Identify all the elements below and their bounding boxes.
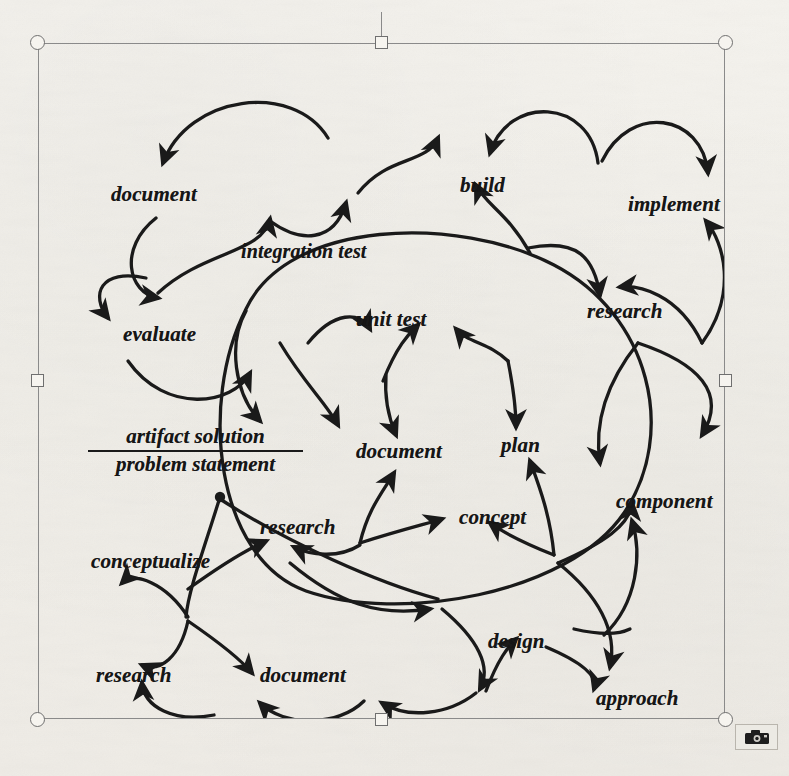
- image-selection-frame[interactable]: [38, 43, 725, 719]
- selection-border: [38, 43, 725, 719]
- resize-handle-middle-left[interactable]: [31, 374, 44, 387]
- resize-handle-bottom-center[interactable]: [375, 713, 388, 726]
- resize-handle-bottom-left[interactable]: [30, 712, 45, 727]
- resize-handle-middle-right[interactable]: [719, 374, 732, 387]
- rotation-handle-top-center[interactable]: [375, 36, 388, 49]
- resize-handle-top-left[interactable]: [30, 35, 45, 50]
- resize-handle-top-right[interactable]: [718, 35, 733, 50]
- picture-toolbar[interactable]: [735, 724, 778, 750]
- rotation-handle-stem: [381, 12, 383, 38]
- picture-toolbar-icon: [744, 729, 770, 745]
- resize-handle-bottom-right[interactable]: [718, 712, 733, 727]
